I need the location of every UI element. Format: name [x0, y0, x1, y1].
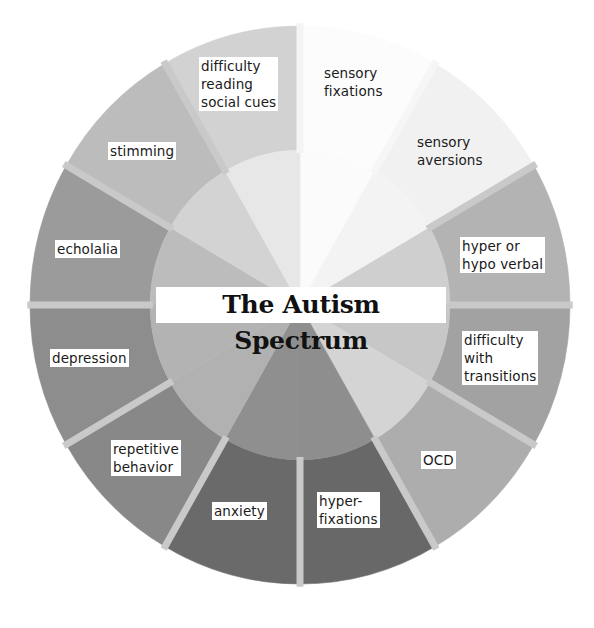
segment-label: repetitive behavior [111, 440, 181, 476]
chart-title: The Autism Spectrum [156, 287, 446, 323]
segment-label: anxiety [212, 502, 267, 520]
segment-label: difficulty with transitions [462, 331, 538, 385]
segment-label: stimming [108, 142, 176, 160]
segment-label: sensory fixations [322, 64, 385, 100]
segment-label: echolalia [55, 240, 120, 258]
segment-label: depression [50, 349, 129, 367]
segment-label: difficulty reading social cues [199, 57, 278, 111]
segment-label: hyper- fixations [317, 492, 380, 528]
segment-label: sensory aversions [415, 133, 485, 169]
segment-label: OCD [421, 451, 456, 469]
segment-label: hyper or hypo verbal [460, 237, 545, 273]
